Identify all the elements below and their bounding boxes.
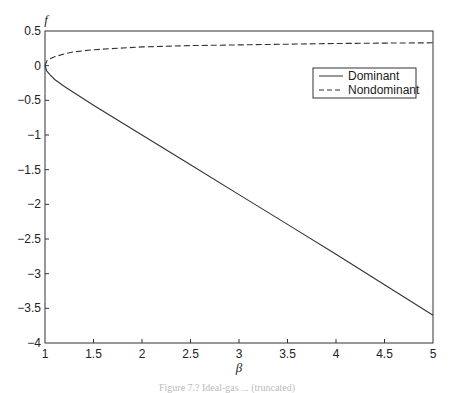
series-nondominant — [45, 43, 433, 66]
x-tick-label: 4.5 — [376, 347, 393, 361]
y-tick-label: 0 — [34, 59, 41, 73]
x-tick-label: 4 — [333, 347, 340, 361]
y-tick-label: −0.5 — [17, 93, 41, 107]
y-tick-label: −1 — [27, 128, 41, 142]
y-tick-label: −3.5 — [17, 301, 41, 315]
legend-item-dominant: Dominant — [348, 69, 400, 83]
series-dominant — [45, 66, 433, 316]
figure-caption: Figure 7.? Ideal-gas ... (truncated) — [0, 382, 454, 393]
x-tick-label: 1 — [42, 347, 49, 361]
x-tick-label: 1.5 — [85, 347, 102, 361]
x-tick-label: 2 — [139, 347, 146, 361]
x-axis-ticks: 11.522.533.544.55 — [42, 339, 437, 361]
y-tick-label: −2 — [27, 197, 41, 211]
x-tick-label: 5 — [430, 347, 437, 361]
x-tick-label: 3 — [236, 347, 243, 361]
x-axis-label: β — [235, 360, 243, 375]
y-tick-label: 0.5 — [24, 24, 41, 38]
legend-item-nondominant: Nondominant — [348, 83, 420, 97]
x-tick-label: 2.5 — [182, 347, 199, 361]
y-tick-label: −3 — [27, 267, 41, 281]
y-tick-label: −1.5 — [17, 163, 41, 177]
y-tick-label: −2.5 — [17, 232, 41, 246]
y-axis-label: f — [44, 12, 50, 27]
x-tick-label: 3.5 — [279, 347, 296, 361]
legend: Dominant Nondominant — [313, 68, 420, 98]
y-tick-label: −4 — [27, 336, 41, 350]
y-axis-ticks: 0.50−0.5−1−1.5−2−2.5−3−3.5−4 — [17, 24, 49, 350]
